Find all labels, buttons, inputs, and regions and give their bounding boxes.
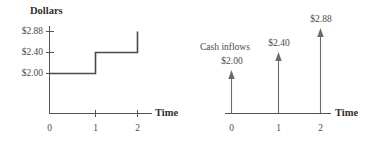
value-label-288: $2.88: [297, 15, 345, 25]
value-label-200: $2.00: [208, 57, 256, 67]
panel-step-chart: Dollars Time $2.88 $2.40 $2.00 0 1 2: [0, 0, 187, 147]
y-tick-label-240: $2.40: [7, 48, 43, 58]
inflow-arrowhead-2: [317, 28, 323, 37]
figure-two-panel-chart: Dollars Time $2.88 $2.40 $2.00 0 1 2 Cas…: [0, 0, 374, 147]
value-label-240: $2.40: [255, 39, 303, 49]
x-tick-label-2: 2: [310, 124, 331, 134]
cash-inflows-note: Cash inflows: [200, 43, 250, 53]
y-axis-title: Dollars: [30, 6, 63, 17]
panel-cash-inflows-chart: Cash inflows Time $2.00 $2.40 $2.88 0 1 …: [187, 0, 374, 147]
inflow-arrowhead-1: [275, 52, 281, 61]
x-tick-label-1: 1: [268, 124, 289, 134]
inflow-arrowhead-0: [228, 70, 234, 79]
x-tick-label-0: 0: [221, 124, 242, 134]
step-function-path: [50, 32, 138, 74]
x-tick-label-0: 0: [39, 124, 60, 134]
y-tick-label-200: $2.00: [7, 69, 43, 79]
x-axis-title: Time: [335, 108, 358, 119]
x-tick-label-2: 2: [127, 124, 148, 134]
y-tick-label-288: $2.88: [7, 27, 43, 37]
x-tick-label-1: 1: [85, 124, 106, 134]
x-axis-title: Time: [155, 108, 178, 119]
